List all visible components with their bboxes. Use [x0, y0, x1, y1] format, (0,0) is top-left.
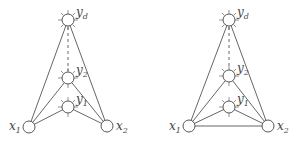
- label-x1: x1: [9, 119, 21, 135]
- node-y1: [219, 97, 239, 117]
- node-y2: [219, 66, 239, 86]
- edge-x1-y2: [29, 78, 68, 127]
- label-x2: x2: [116, 119, 128, 135]
- label-y1: y1: [236, 92, 249, 108]
- node-yd: [219, 10, 239, 30]
- node-y1: [58, 97, 78, 117]
- label-yd: yd: [75, 5, 88, 21]
- label-y2: y2: [75, 63, 88, 79]
- node-y2: [58, 68, 78, 88]
- node-x2: [101, 120, 113, 132]
- right-graph: yd y2 y1: [169, 5, 289, 135]
- label-y1: y1: [75, 92, 88, 108]
- label-y2: y2: [236, 61, 249, 77]
- node-yd: [58, 10, 78, 30]
- node-x1: [183, 120, 195, 132]
- left-graph: yd y2 y1: [9, 5, 128, 135]
- edge-x1-yd: [29, 20, 68, 127]
- label-x2: x2: [277, 119, 289, 135]
- label-yd: yd: [236, 5, 249, 21]
- node-x2: [262, 120, 274, 132]
- label-x1: x1: [169, 119, 181, 135]
- node-x1: [23, 121, 35, 133]
- graph-diagrams: yd y2 y1: [0, 0, 296, 143]
